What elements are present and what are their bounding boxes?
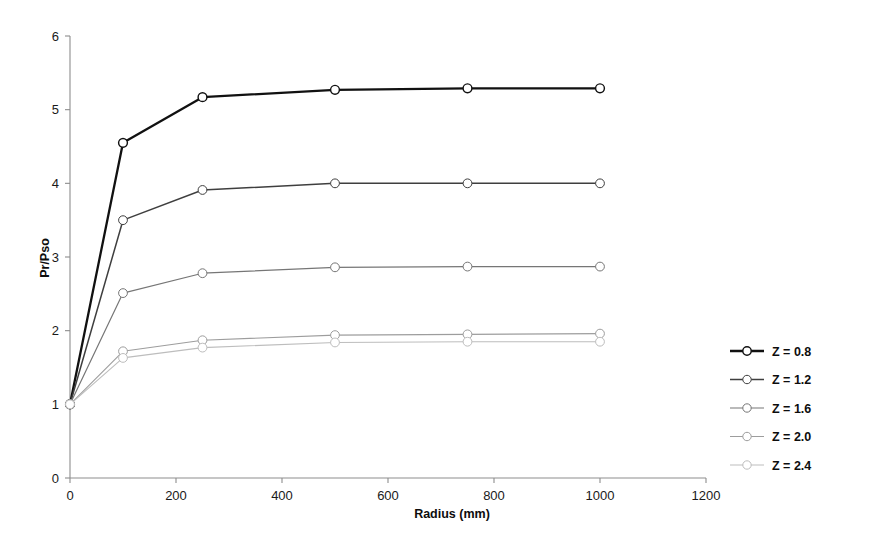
legend-item-label: Z = 2.4 [772, 459, 811, 473]
legend-item-label: Z = 0.8 [772, 345, 811, 359]
data-point-marker [331, 263, 340, 272]
data-point-marker [198, 269, 207, 278]
legend-item-label: Z = 2.0 [772, 430, 811, 444]
y-tick-label: 5 [52, 102, 59, 117]
data-point-marker [596, 179, 605, 188]
data-point-marker [463, 179, 472, 188]
x-tick-label: 200 [165, 488, 187, 503]
data-point-marker [119, 138, 128, 147]
x-tick-label: 0 [66, 488, 73, 503]
data-point-marker [463, 262, 472, 271]
line-chart: 0123456 020040060080010001200 Radius (mm… [0, 0, 890, 547]
legend-swatch-marker [743, 375, 751, 383]
data-point-marker [119, 354, 128, 363]
x-tick-label: 600 [377, 488, 399, 503]
legend-item-label: Z = 1.6 [772, 402, 811, 416]
y-tick-label: 4 [52, 176, 59, 191]
x-tick-label: 400 [271, 488, 293, 503]
data-point-marker [198, 343, 207, 352]
data-point-marker [596, 329, 605, 338]
data-point-marker [463, 84, 472, 93]
legend-swatch-marker [743, 347, 751, 355]
y-tick-label: 1 [52, 397, 59, 412]
y-tick-label: 3 [52, 250, 59, 265]
data-point-marker [119, 216, 128, 225]
data-point-marker [331, 179, 340, 188]
data-point-marker [198, 186, 207, 195]
data-point-marker [596, 262, 605, 271]
data-point-marker [119, 289, 128, 298]
data-point-marker [331, 85, 340, 94]
y-axis-title: Pr/Pso [38, 238, 52, 278]
y-tick-label: 6 [52, 29, 59, 44]
data-point-marker [331, 338, 340, 347]
data-point-marker [198, 93, 207, 102]
data-point-marker [66, 400, 75, 409]
data-point-marker [463, 337, 472, 346]
legend-item-label: Z = 1.2 [772, 373, 811, 387]
data-point-marker [596, 84, 605, 93]
x-axis-title: Radius (mm) [414, 507, 490, 521]
chart-figure: 0123456 020040060080010001200 Radius (mm… [0, 0, 890, 547]
x-tick-label: 800 [483, 488, 505, 503]
legend-swatch-marker [743, 432, 751, 440]
y-tick-label: 0 [52, 471, 59, 486]
legend-swatch-marker [743, 404, 751, 412]
x-tick-label: 1000 [586, 488, 615, 503]
legend-swatch-marker [743, 461, 751, 469]
y-tick-label: 2 [52, 323, 59, 338]
x-tick-label: 1200 [692, 488, 721, 503]
data-point-marker [596, 337, 605, 346]
